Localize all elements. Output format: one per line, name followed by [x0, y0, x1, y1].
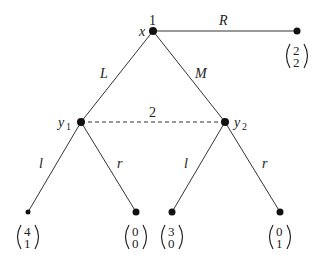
node-x-label: x	[138, 24, 146, 39]
action-y2-r-label: r	[262, 156, 268, 171]
payoff-L-l: 4 1	[18, 224, 39, 251]
action-M-label: M	[194, 66, 208, 81]
payoff-M-l: 3 0	[162, 224, 183, 251]
node-terminal-Ml	[169, 209, 176, 216]
action-y1-l-label: l	[39, 156, 43, 171]
action-L-label: L	[99, 66, 108, 81]
edge-y2-l	[172, 122, 225, 212]
payoff-M-r: 0 1	[270, 224, 291, 251]
edge-y1-l	[28, 122, 81, 212]
node-y2-label: y 2	[232, 115, 247, 132]
node-y2	[221, 118, 229, 126]
node-terminal-Lr	[133, 209, 140, 216]
node-terminal-R	[294, 28, 301, 35]
edge-y2-r	[225, 122, 280, 212]
action-R-label: R	[218, 13, 228, 28]
payoff-R: 2 2	[287, 43, 308, 70]
svg-text:1: 1	[24, 236, 31, 251]
svg-text:1: 1	[276, 236, 283, 251]
player-2-label: 2	[149, 105, 156, 120]
svg-text:y: y	[232, 115, 241, 130]
node-terminal-Ll	[26, 210, 31, 215]
node-y1-label: y 1	[56, 115, 71, 132]
svg-text:0: 0	[168, 236, 175, 251]
node-x	[149, 27, 157, 35]
action-y2-l-label: l	[184, 156, 188, 171]
edge-M	[153, 31, 225, 122]
svg-text:2: 2	[242, 121, 247, 132]
node-terminal-Mr	[277, 209, 284, 216]
svg-text:0: 0	[132, 236, 139, 251]
node-y1	[77, 118, 85, 126]
edge-L	[81, 31, 153, 122]
svg-text:y: y	[56, 115, 65, 130]
svg-text:1: 1	[66, 121, 71, 132]
action-y1-r-label: r	[117, 156, 123, 171]
payoff-L-r: 0 0	[126, 224, 147, 251]
player-1-label: 1	[149, 13, 156, 28]
svg-text:2: 2	[293, 55, 300, 70]
edge-y1-r	[81, 122, 136, 212]
game-tree: 1 x R L M 2 y 1 y 2 l r l r 2 2 4 1 0 0 …	[0, 0, 328, 272]
